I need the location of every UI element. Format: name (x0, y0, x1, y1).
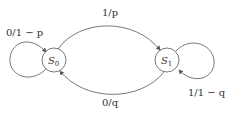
state-s1: S1 (155, 48, 179, 72)
edge-s0-s1 (58, 26, 160, 50)
state-s1-label: S1 (161, 55, 172, 68)
state-diagram: S0 S1 1/p 0/q 0/1 − p 1/1 − q (0, 0, 228, 116)
edge-s1-s0 (60, 71, 164, 94)
edge-s0-s1-label: 1/p (102, 7, 118, 18)
loop-s1-label: 1/1 − q (188, 87, 226, 98)
state-s0-label: S0 (48, 55, 59, 68)
loop-s0-label: 0/1 − p (6, 27, 43, 38)
loop-s0 (10, 42, 46, 77)
loop-s1 (176, 43, 214, 79)
edge-s1-s0-label: 0/q (102, 97, 119, 108)
